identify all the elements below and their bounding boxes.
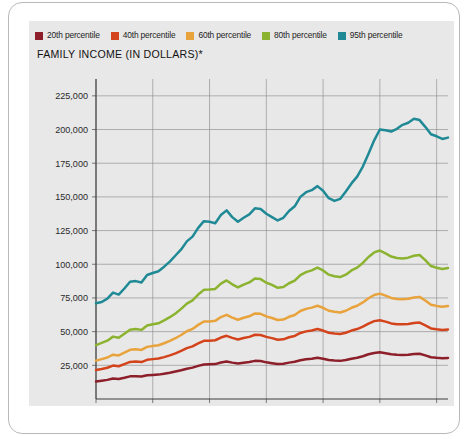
legend-item: 40th percentile — [111, 31, 176, 39]
series-line-2 — [96, 294, 448, 361]
figure-outer-frame: 20th percentile40th percentile60th perce… — [8, 2, 460, 434]
line-chart-svg: 225,000200,000175,000150,000125,000100,0… — [29, 65, 454, 406]
y-tick-label: 225,000 — [55, 91, 88, 101]
legend-swatch-icon — [338, 32, 346, 40]
y-axis-ticks: 225,000200,000175,000150,000125,000100,0… — [55, 91, 96, 370]
y-tick-label: 100,000 — [55, 260, 88, 270]
x-axis-ticks: 1950196019701980199020002010 — [86, 399, 447, 406]
y-tick-label: 175,000 — [55, 159, 88, 169]
legend-item-label: 20th percentile — [47, 31, 100, 39]
legend-item: 60th percentile — [186, 31, 251, 39]
legend-item-label: 95th percentile — [350, 31, 403, 39]
y-tick-label: 50,000 — [60, 327, 88, 337]
legend-swatch-icon — [35, 32, 43, 40]
legend-item-label: 40th percentile — [123, 31, 176, 39]
legend-item-label: 60th percentile — [198, 31, 251, 39]
legend-swatch-icon — [111, 32, 119, 40]
gridlines — [96, 79, 448, 399]
legend-item: 20th percentile — [35, 31, 100, 39]
legend-item: 95th percentile — [338, 31, 403, 39]
chart-legend: 20th percentile40th percentile60th perce… — [35, 28, 449, 43]
legend-swatch-icon — [262, 32, 270, 40]
series-line-4 — [96, 119, 448, 304]
chart-card: 20th percentile40th percentile60th perce… — [29, 21, 454, 406]
data-series — [96, 119, 448, 382]
plot-area: 225,000200,000175,000150,000125,000100,0… — [29, 65, 454, 406]
chart-title: FAMILY INCOME (IN DOLLARS)* — [37, 48, 203, 60]
y-tick-label: 75,000 — [60, 293, 88, 303]
series-line-0 — [96, 352, 448, 381]
legend-swatch-icon — [186, 32, 194, 40]
y-tick-label: 150,000 — [55, 192, 88, 202]
legend-item: 80th percentile — [262, 31, 327, 39]
y-tick-label: 200,000 — [55, 125, 88, 135]
y-tick-label: 25,000 — [60, 361, 88, 371]
y-tick-label: 125,000 — [55, 226, 88, 236]
legend-item-label: 80th percentile — [274, 31, 327, 39]
